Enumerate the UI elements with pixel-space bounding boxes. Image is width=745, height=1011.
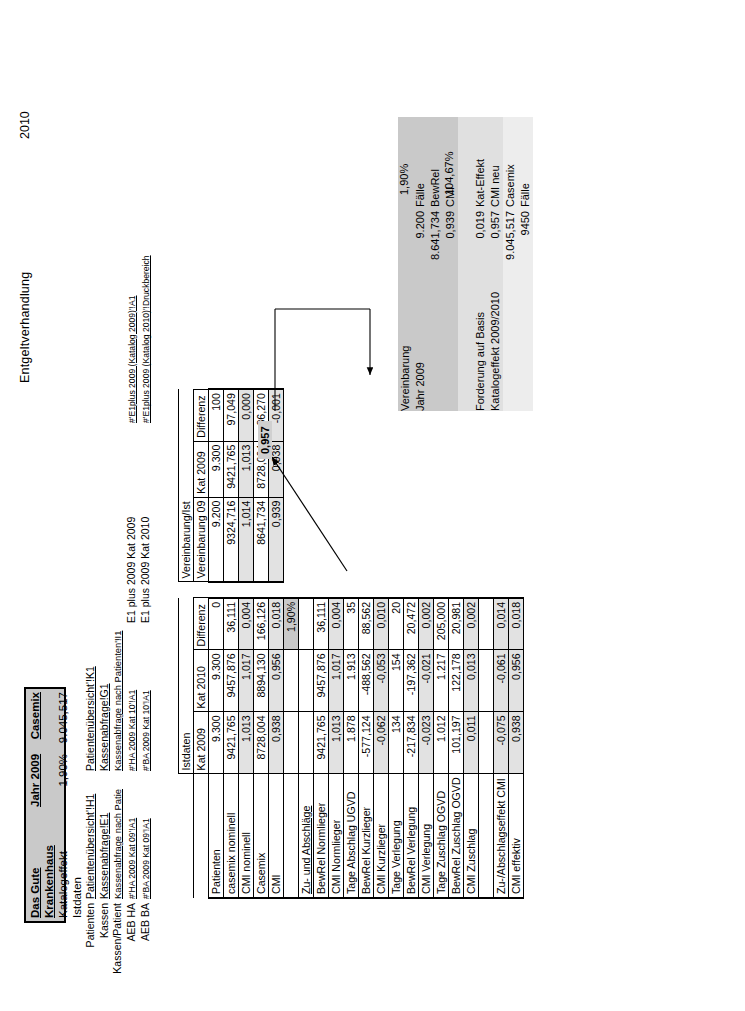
cell-vereinbarung09: 9.200 — [209, 497, 224, 582]
cell-vereinbarung09 — [479, 497, 494, 582]
summary-row: Forderung auf Basis0,019Kat-Effekt — [473, 117, 488, 411]
summary-row-unit: Kat-Effekt — [473, 117, 488, 207]
cell-gap — [374, 582, 389, 598]
table-row: casemix nominell9421,7659457,87636,11193… — [224, 389, 239, 898]
link-row-aeb-ha: AEB HA #'HA 2009 Kat 09'!A1 #'HA 2009 Ka… — [125, 255, 140, 989]
cell-kat2009: -0,062 — [374, 712, 389, 774]
summary-row-value: 9450 — [518, 207, 533, 277]
cell-vereinbarung09 — [434, 497, 449, 582]
cell-kat2009: 101,197 — [449, 712, 464, 774]
cell-gap — [359, 582, 374, 598]
cell-kat2009: 1.878 — [344, 712, 359, 774]
row-label: BewRel Normlieger — [314, 774, 329, 898]
table-row: BewRel Verlegung-217,834-197,36220,472 — [404, 389, 419, 898]
summary-row — [458, 117, 473, 411]
cell-kat2009: 1,013 — [329, 712, 344, 774]
link-kassen-patient-b[interactable]: Kassenabfrage nach Patienten'!I1 — [111, 623, 125, 771]
cell-kat2010: 154 — [389, 650, 404, 712]
cell-differenz: 35 — [344, 598, 359, 650]
row-label: CMI Normlieger — [329, 774, 344, 898]
table-row — [479, 389, 494, 898]
row-label: CMI Kurzlieger — [374, 774, 389, 898]
link-kassen-a[interactable]: Kassenabfrage!E1 — [98, 771, 112, 899]
link-aeb-ha-b[interactable]: #'HA 2009 Kat 10'!A1 — [126, 623, 140, 771]
cell-kat2010 — [299, 650, 314, 712]
cell-vereinbarung09 — [464, 497, 479, 582]
row-label — [479, 774, 494, 898]
cell-gap — [314, 582, 329, 598]
cell-kat2009: 0,938 — [269, 712, 284, 774]
cell-gap — [269, 582, 284, 598]
cell-differenz: 36,111 — [224, 598, 239, 650]
header-col-jahr2009: Jahr 2009 — [28, 750, 56, 818]
cell-gap — [479, 582, 494, 598]
link-aeb-ha-a[interactable]: #'HA 2009 Kat 09'!A1 — [126, 771, 140, 899]
cell-gap — [284, 582, 299, 598]
cell-differenz: 0 — [209, 598, 224, 650]
cell-kat2009: -0,075 — [494, 712, 509, 774]
cell-kat2010: 1,017 — [239, 650, 254, 712]
header-casemix-value: 9.045,517 — [56, 692, 84, 750]
cell-kat2010: -488,562 — [359, 650, 374, 712]
cell-kat2009: 8728,004 — [254, 712, 269, 774]
summary-row-label: Forderung auf Basis — [473, 277, 488, 411]
row-label: Zu- und Abschläge — [299, 774, 314, 898]
col-header-v-differenz: Differenz — [194, 389, 209, 441]
summary-row-label: Jahr 2009 — [413, 277, 428, 411]
cell-gap — [209, 582, 224, 598]
row-label: Zu-/Abschlagseffekt CMI — [494, 774, 509, 898]
table-row: Patienten9.3009.30009.2009.300100 — [209, 389, 224, 898]
row-label: CMI Verlegung — [419, 774, 434, 898]
cell-kat2010 — [479, 650, 494, 712]
link-aeb-ba-a[interactable]: #'BA 2009 Kat 09'!A1 — [140, 771, 154, 899]
link-row-patienten: Patienten Patientenübersicht'!H1 Patient… — [84, 255, 98, 989]
cell-vereinbarung09 — [419, 497, 434, 582]
document-year: 2010 — [18, 111, 32, 139]
cell-kat2010: -0,061 — [494, 650, 509, 712]
link-aeb-ha-d[interactable]: #'E1plus 2009 (Katalog 2009)'!A1 — [126, 295, 140, 423]
summary-row: 9450Fälle — [518, 117, 533, 411]
cell-differenz: 36,111 — [314, 598, 329, 650]
cell-kat2010: 1,017 — [329, 650, 344, 712]
summary-row: Jahr 20099.200Fälle — [413, 117, 428, 411]
col-header-v-kat2009: Kat 2009 — [194, 441, 209, 497]
link-kassen-patient-a[interactable]: Kassenabfrage nach Patie — [111, 771, 125, 899]
cell-differenz: 205,000 — [434, 598, 449, 650]
header-row-label: Katalogeffekt Istdaten — [56, 818, 84, 918]
link-label-kassen-patient: Kassen/Patient — [111, 899, 125, 989]
cell-kat2009 — [479, 712, 494, 774]
summary-row-label: Vereinbarung — [398, 277, 413, 411]
link-aeb-ba-d[interactable]: #'E1plus 2009 (Katalog 2010)'!Druckberei… — [140, 255, 154, 423]
summary-row-value: 0,939 — [443, 207, 458, 277]
cell-differenz: 0,002 — [419, 598, 434, 650]
summary-row-unit: Fälle — [413, 117, 428, 207]
cell-differenz — [299, 598, 314, 650]
cell-gap — [419, 582, 434, 598]
callout-value: 0,957 — [258, 421, 272, 459]
cell-differenz: 166,126 — [254, 598, 269, 650]
cell-differenz: 20 — [389, 598, 404, 650]
cell-gap — [224, 582, 239, 598]
link-aeb-ba-b[interactable]: #'BA 2009 Kat 10'!A1 — [140, 623, 154, 771]
link-patienten-b[interactable]: Patientenübersicht'!K1 — [84, 623, 98, 771]
cell-v-kat2009: 9421,765 — [224, 441, 239, 497]
col-header-kat2009: Kat 2009 — [194, 712, 209, 774]
cell-kat2010: 0,956 — [269, 650, 284, 712]
row-label: Tage Verlegung — [389, 774, 404, 898]
cell-gap — [509, 582, 524, 598]
hyperlink-block: Patienten Patientenübersicht'!H1 Patient… — [84, 255, 154, 989]
summary-row-value: 8.641,734 — [428, 207, 443, 277]
summary-row-label: Katalogeffekt 2009/2010 — [488, 277, 503, 411]
cell-kat2010: -0,053 — [374, 650, 389, 712]
link-kassen-b[interactable]: Kassenabfrage!G1 — [98, 623, 112, 771]
cell-vereinbarung09 — [494, 497, 509, 582]
link-patienten-a[interactable]: Patientenübersicht'!H1 — [84, 771, 98, 899]
group-header-gap — [179, 582, 194, 598]
cell-differenz: 0,004 — [239, 598, 254, 650]
cell-v-kat2009 — [449, 441, 464, 497]
cell-kat2010: -197,362 — [404, 650, 419, 712]
row-label: Casemix — [254, 774, 269, 898]
link-row-kassen: Kassen Kassenabfrage!E1 Kassenabfrage!G1 — [98, 255, 112, 989]
summary-row-unit: BewRel — [428, 117, 443, 207]
table-column-header-row: Kat 2009 Kat 2010 Differenz Vereinbarung… — [194, 389, 209, 898]
